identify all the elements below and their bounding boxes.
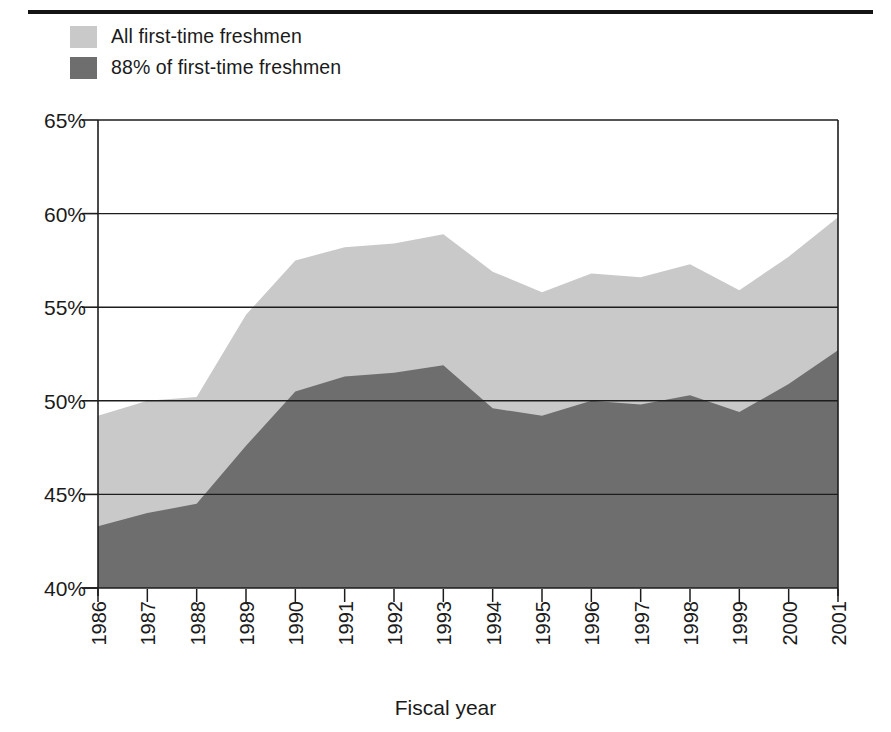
x-axis-label-2000: 2000 <box>780 601 800 681</box>
x-axis-label-1994: 1994 <box>484 601 504 681</box>
x-axis-label-1986: 1986 <box>89 601 109 681</box>
x-axis-title: Fiscal year <box>0 696 891 720</box>
x-axis-label-1996: 1996 <box>582 601 602 681</box>
x-axis-label-1993: 1993 <box>434 601 454 681</box>
x-axis-label-1992: 1992 <box>385 601 405 681</box>
x-axis-label-1995: 1995 <box>533 601 553 681</box>
x-axis-label-1989: 1989 <box>237 601 257 681</box>
x-axis-label-1998: 1998 <box>681 601 701 681</box>
x-axis-label-1997: 1997 <box>632 601 652 681</box>
x-axis-label-1987: 1987 <box>138 601 158 681</box>
x-axis-label-2001: 2001 <box>829 601 849 681</box>
x-axis-label-1991: 1991 <box>336 601 356 681</box>
x-axis-tick-labels: 1986198719881989199019911992199319941995… <box>0 0 891 732</box>
x-axis-label-1999: 1999 <box>730 601 750 681</box>
x-axis-label-1990: 1990 <box>286 601 306 681</box>
x-axis-label-1988: 1988 <box>188 601 208 681</box>
